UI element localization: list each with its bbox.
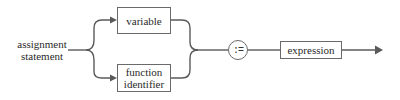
arrow-head-exit xyxy=(375,46,383,55)
expression-box: expression xyxy=(280,41,342,59)
start-label: assignment statement xyxy=(8,38,76,62)
variable-box: variable xyxy=(117,7,171,34)
function-identifier-line1: function xyxy=(126,66,163,78)
variable-label: variable xyxy=(126,15,161,27)
assignment-operator-label: := xyxy=(233,45,243,56)
start-label-line1: assignment xyxy=(8,38,76,50)
function-identifier-box: function identifier xyxy=(117,64,171,92)
expression-label: expression xyxy=(287,44,334,56)
function-identifier-line2: identifier xyxy=(124,78,164,90)
start-label-line2: statement xyxy=(8,50,76,62)
arrow-head-function xyxy=(110,75,117,82)
arrow-head-variable xyxy=(110,17,117,24)
assignment-operator-node: := xyxy=(228,40,248,60)
